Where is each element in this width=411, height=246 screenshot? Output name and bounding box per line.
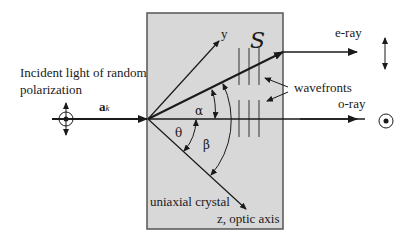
incident-label-line2: polarization xyxy=(20,83,82,96)
beta-label: β xyxy=(203,139,210,151)
o-ray-label: o-ray xyxy=(338,97,365,110)
z-axis-label: z, optic axis xyxy=(217,212,279,225)
o-ray-polarization-icon xyxy=(379,114,393,128)
incident-label-line1: Incident light of random xyxy=(20,66,147,79)
alpha-label: α xyxy=(195,105,203,117)
crystal-label: uniaxial crystal xyxy=(150,195,230,208)
wave-vector-label: ak xyxy=(99,100,110,113)
wave-vector-subscript: k xyxy=(106,103,110,113)
theta-label: θ xyxy=(175,127,182,139)
y-axis-label: y xyxy=(221,27,228,40)
wavefronts-label: wavefronts xyxy=(294,81,352,94)
poynting-vector-label: S xyxy=(250,30,265,52)
e-ray-label: e-ray xyxy=(335,26,362,39)
